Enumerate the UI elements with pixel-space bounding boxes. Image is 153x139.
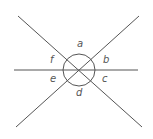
intersecting-lines-diagram: a b c d e f	[0, 0, 153, 139]
angle-label-a: a	[77, 38, 83, 49]
diagonal-up-line	[16, 16, 139, 127]
diagonal-down-line	[18, 16, 142, 127]
angle-label-e: e	[50, 73, 56, 84]
diagram-svg: a b c d e f	[0, 0, 153, 139]
angle-label-b: b	[103, 54, 109, 65]
angle-label-d: d	[76, 87, 83, 98]
angle-label-f: f	[50, 54, 55, 65]
angle-label-c: c	[102, 73, 108, 84]
